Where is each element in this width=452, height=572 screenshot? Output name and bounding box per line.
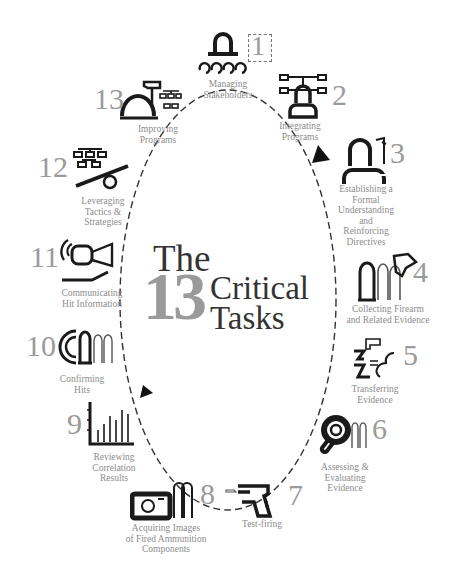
collecting-firearm-icon [356,252,418,302]
task-number: 1 [251,31,265,61]
task-number: 8 [200,479,215,509]
arrow-head-top-right [312,145,330,163]
bar-chart-icon [86,400,138,448]
arrow-head-bottom-left [140,385,153,398]
task-label: Test-firing [232,519,292,530]
task-number: 7 [288,480,303,510]
camera-icon [130,480,200,522]
task-label: Integrating Programs [270,121,330,142]
title-tasks: Tasks [210,302,285,335]
task-number: 13 [94,84,124,114]
task-label: Transferring Evidence [340,384,410,405]
task-number: 10 [26,331,56,361]
formal-understanding-icon [340,136,396,186]
task-number: 4 [413,257,428,287]
task-label: Communicating Hit Information [52,288,132,309]
megaphone-icon [58,236,118,286]
task-label: Confirming Hits [56,374,108,395]
task-label: Improving Programs [128,124,188,145]
pistol-icon [224,478,284,518]
task-number: 6 [372,414,387,444]
task-label: Leveraging Tactics & Strategies [73,196,133,228]
task-number: 9 [67,409,82,439]
task-number: 11 [30,242,59,272]
confirming-hits-icon [58,327,116,367]
task-number: 5 [403,340,418,370]
integrating-programs-icon [278,73,332,119]
thirteen-critical-tasks-diagram: The 13 Critical Tasks 1 Managing Stakeho… [0,0,452,572]
task-label: Managing Stakeholders [198,79,258,100]
task-label: Reviewing Correlation Results [84,452,144,484]
transferring-evidence-icon [352,333,404,383]
org-chart-lever-icon [72,148,130,192]
task-label: Establishing a Formal Understanding and … [326,184,406,247]
task-label: Assessing & Evaluating Evidence [310,462,380,494]
hammer-dome-icon [118,80,182,122]
magnifier-icon [318,412,374,456]
task-label: Acquiring Images of Fired Ammunition Com… [116,523,216,555]
task-number: 12 [38,152,68,182]
task-label: Collecting Firearm and Related Evidence [338,304,438,325]
task-number: 3 [390,138,405,168]
title-number: 13 [143,262,203,330]
task-number: 2 [332,80,347,110]
stakeholders-icon [196,30,250,78]
